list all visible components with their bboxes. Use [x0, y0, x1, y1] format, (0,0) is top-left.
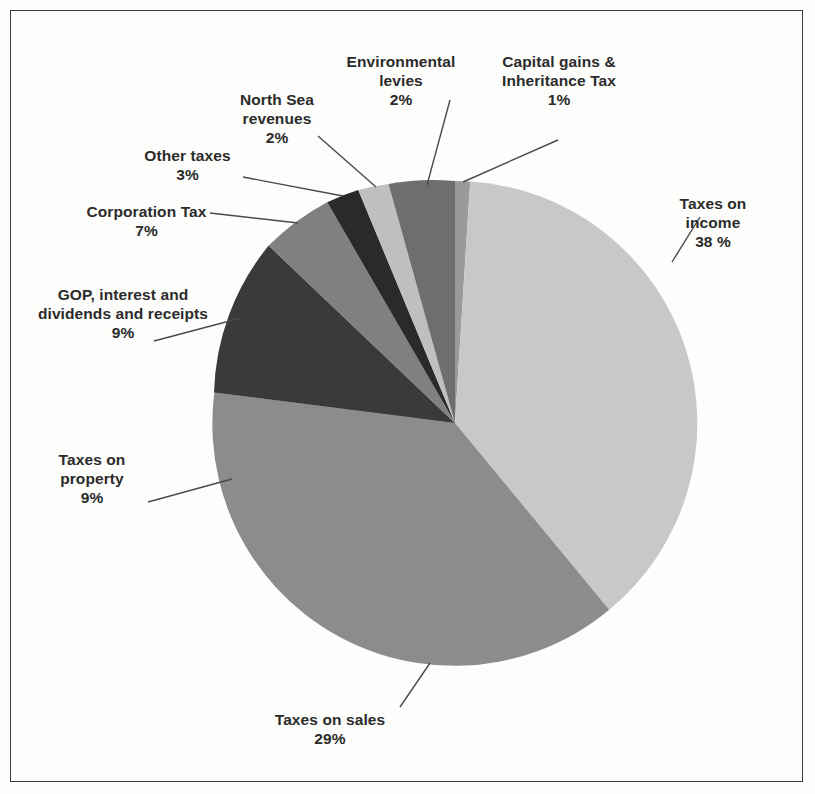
leader-line-corporation-tax	[210, 213, 298, 223]
pie-label-gop-interest-dividends: GOP, interest and dividends and receipts…	[28, 285, 218, 342]
pie-label-capital-gains: Capital gains & Inheritance Tax 1%	[494, 52, 624, 109]
pie-label-corporation-tax: Corporation Tax 7%	[83, 202, 210, 240]
pie-chart-graphic	[0, 0, 815, 794]
pie-label-other-taxes: Other taxes 3%	[135, 146, 240, 184]
pie-label-north-sea-revenues: North Sea revenues 2%	[222, 90, 332, 147]
leader-line-environmental	[427, 100, 450, 185]
pie-chart: Capital gains & Inheritance Tax 1% Envir…	[0, 0, 815, 794]
leader-line-taxes-sales	[400, 663, 430, 707]
leader-line-taxes-property	[148, 479, 232, 502]
pie-label-environmental-levies: Environmental levies 2%	[326, 52, 476, 109]
pie-label-taxes-on-sales: Taxes on sales 29%	[256, 710, 404, 748]
leader-line-other-taxes	[243, 177, 343, 196]
leader-line-capital-gains	[463, 140, 558, 182]
chart-page: Capital gains & Inheritance Tax 1% Envir…	[0, 0, 815, 794]
pie-label-taxes-on-property: Taxes on property 9%	[38, 450, 146, 507]
pie-label-taxes-on-income: Taxes on income 38 %	[663, 194, 763, 251]
